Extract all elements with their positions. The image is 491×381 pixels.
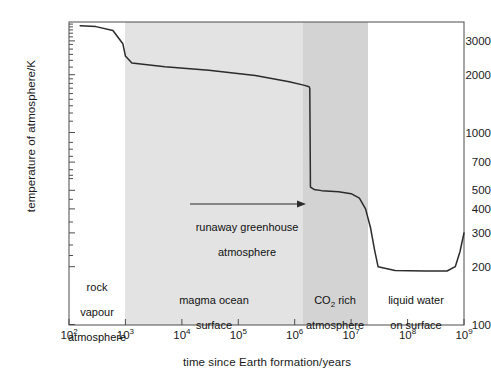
- annotation-runaway-greenhouse: runaway greenhouse atmosphere: [196, 208, 299, 271]
- region-label-line1: rock: [68, 281, 126, 294]
- annotation-line2: atmosphere: [196, 246, 299, 259]
- x-tick-exponent: 9: [468, 327, 472, 336]
- x-tick-mantissa: 10: [286, 329, 299, 341]
- x-tick-label-1e6: 106: [286, 329, 303, 341]
- region-label-magma-ocean-surface: magma ocean surface: [179, 281, 249, 344]
- region-label-liquid-water-on-surface: liquid water on surface: [388, 281, 444, 344]
- region-label-rock-vapour-atmosphere: rock vapour atmosphere: [68, 268, 126, 356]
- y-tick-label-1000: 1000: [431, 127, 491, 139]
- region-label-line1: CO2 rich: [306, 294, 364, 307]
- y-tick-label-200: 200: [431, 261, 491, 273]
- x-tick-label-1e9: 109: [455, 329, 472, 341]
- region-label-line2: surface: [179, 319, 249, 332]
- region-label-line2: vapour: [68, 306, 126, 319]
- co2-text: CO: [314, 294, 331, 306]
- x-tick-exponent: 3: [130, 327, 134, 336]
- y-tick-label-700: 700: [431, 156, 491, 168]
- y-axis-title: temperature of atmosphere/K: [25, 21, 37, 251]
- region-label-line2: atmosphere: [306, 319, 364, 332]
- region-label-line1: liquid water: [388, 294, 444, 307]
- y-tick-label-2000: 2000: [431, 69, 491, 81]
- y-axis-minor-ticks: [69, 24, 73, 255]
- x-axis-title: time since Earth formation/years: [69, 356, 465, 368]
- x-tick-exponent: 6: [299, 327, 303, 336]
- region-label-line1: magma ocean: [179, 294, 249, 307]
- y-tick-label-300: 300: [431, 227, 491, 239]
- region-shade-co2-rich: [303, 22, 368, 325]
- x-tick-mantissa: 10: [455, 329, 468, 341]
- y-tick-label-500: 500: [431, 184, 491, 196]
- region-label-co2-rich-atmosphere: CO2 rich atmosphere: [306, 281, 364, 344]
- annotation-line1: runaway greenhouse: [196, 221, 299, 234]
- region-shade-magma-ocean: [125, 22, 303, 325]
- rich-text: rich: [335, 294, 356, 306]
- region-label-line2: on surface: [388, 319, 444, 332]
- y-tick-label-400: 400: [431, 203, 491, 215]
- y-tick-label-3000: 3000: [431, 35, 491, 47]
- region-label-line3: atmosphere: [68, 331, 126, 344]
- chart-figure: 3000 2000 1000 700 500 400 300 200 100 1…: [0, 0, 491, 381]
